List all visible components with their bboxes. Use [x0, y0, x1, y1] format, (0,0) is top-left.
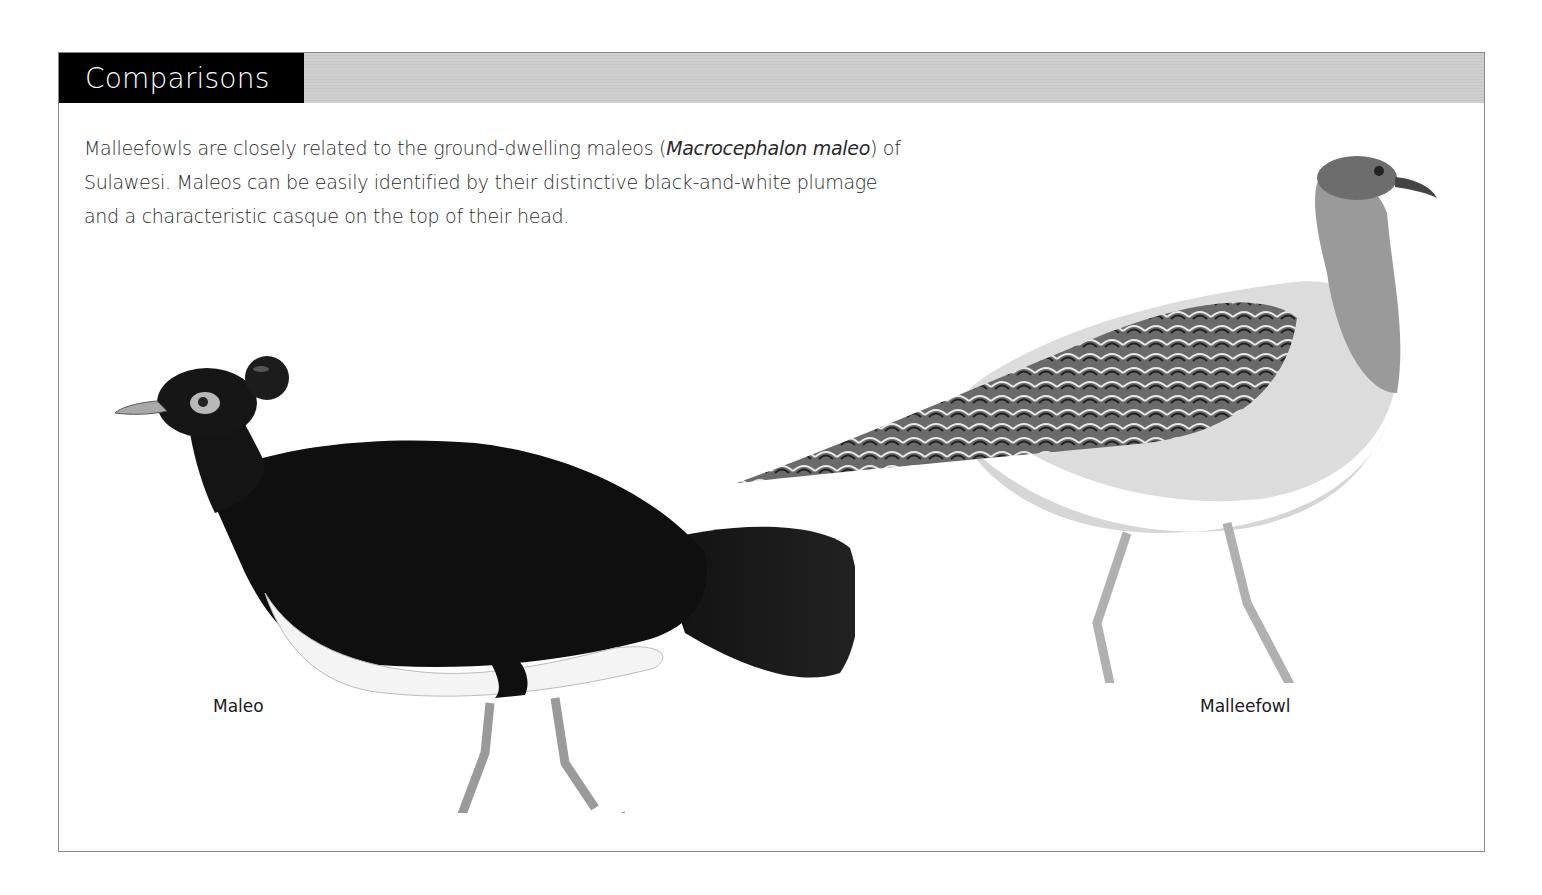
comparisons-panel: Comparisons Malleefowls are closely rela… — [58, 52, 1485, 852]
section-title: Comparisons — [85, 62, 269, 95]
maleo-caption: Maleo — [213, 696, 264, 716]
malleefowl-caption: Malleefowl — [1200, 696, 1290, 716]
section-title-block: Comparisons — [59, 53, 304, 103]
malleefowl-illustration — [727, 153, 1447, 683]
intro-text-1: Malleefowls are closely related to the g… — [84, 137, 666, 159]
